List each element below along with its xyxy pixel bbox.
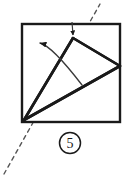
figure-canvas: 5 bbox=[0, 0, 139, 180]
origami-step-figure: 5 bbox=[0, 0, 139, 180]
step-number-label: 5 bbox=[67, 136, 74, 151]
